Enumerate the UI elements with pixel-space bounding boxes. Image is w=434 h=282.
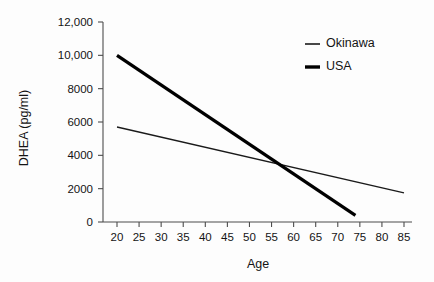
x-tick-label: 25 [133,231,146,243]
x-tick-label: 45 [221,231,234,243]
y-tick-label: 4000 [67,149,93,161]
x-tick-label: 50 [243,231,256,243]
chart-legend: Okinawa USA [305,36,375,73]
x-tick-label: 55 [265,231,278,243]
legend-label-okinawa: Okinawa [326,36,375,50]
chart-container: 0200040006000800010,00012,000 2025303540… [0,0,434,282]
x-tick-label: 35 [177,231,190,243]
y-tick-label: 6000 [67,116,93,128]
y-axis-title: DHEA (pg/ml) [17,90,31,166]
y-tick-label: 12,000 [58,16,93,28]
x-tick-label: 70 [331,231,344,243]
x-tick-label: 75 [353,231,366,243]
x-tick-label: 60 [287,231,300,243]
x-axis-tick-marks [117,222,404,227]
y-tick-label: 2000 [67,183,93,195]
y-tick-label: 8000 [67,83,93,95]
x-tick-label: 80 [376,231,389,243]
x-tick-label: 20 [111,231,124,243]
y-tick-label: 10,000 [58,49,93,61]
x-tick-label: 85 [398,231,411,243]
x-tick-label: 65 [309,231,322,243]
y-tick-label: 0 [87,216,93,228]
y-axis-tick-marks [98,22,103,222]
x-axis-tick-labels: 2025303540455055606570758085 [111,231,411,243]
y-axis-tick-labels: 0200040006000800010,00012,000 [58,16,93,228]
x-tick-label: 40 [199,231,212,243]
legend-label-usa: USA [326,59,352,73]
series-line-okinawa [117,127,404,193]
x-axis-title: Age [247,257,269,271]
x-tick-label: 30 [155,231,168,243]
line-chart-svg: 0200040006000800010,00012,000 2025303540… [0,0,434,282]
